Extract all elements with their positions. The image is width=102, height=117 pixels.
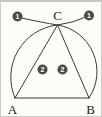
- step-2-badge-left: 2: [38, 65, 48, 75]
- vertex-label-a: A: [8, 102, 18, 116]
- vertex-label-c: C: [53, 8, 62, 23]
- vertex-label-b: B: [86, 102, 95, 116]
- step-2-badge-right: 2: [58, 65, 68, 75]
- step-1-badge-right: 1: [84, 11, 94, 21]
- step-1-badge-right-number: 1: [87, 12, 91, 19]
- step-1-badge-left-number: 1: [16, 13, 20, 20]
- step-1-badge-left: 1: [13, 12, 23, 22]
- step-2-badge-right-number: 2: [61, 66, 65, 73]
- triangle-construction-figure: 1 1 2 2 C A B: [1, 2, 101, 116]
- step-2-badge-left-number: 2: [41, 66, 45, 73]
- geometry-figure-frame: 1 1 2 2 C A B: [0, 0, 102, 117]
